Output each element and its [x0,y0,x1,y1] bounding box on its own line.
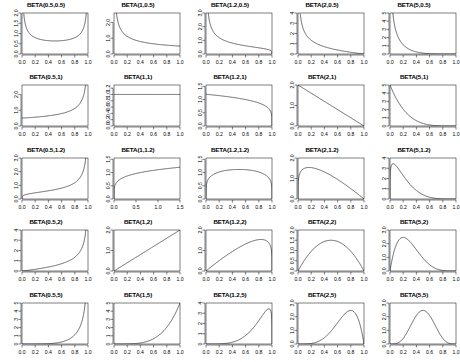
x-tick-label: 0.6 [426,204,433,210]
y-tick-label: 0.0 [105,195,111,202]
plot-panel: BETA(5,0.5)0.00.20.40.60.81.0012345 [368,0,460,72]
plot-area: 0.00.20.40.60.81.00.01.02.0 [276,72,368,144]
x-tick-label: 0.8 [71,204,78,210]
x-tick-label: 0.2 [124,131,131,137]
y-tick-label: 2.0 [105,226,111,233]
x-tick-label: 0.4 [321,59,328,65]
x-tick-label: 0.0 [18,276,25,282]
y-tick-label: 2 [13,249,19,252]
x-tick-label: 0.2 [400,204,407,210]
x-tick-label: 0.0 [202,131,209,137]
density-curve [114,230,180,271]
y-tick-label: 0.0 [13,195,19,202]
plot-frame [298,158,364,199]
x-tick-label: 0.4 [413,276,420,282]
x-tick-label: 1.5 [176,204,183,210]
x-tick-label: 0.6 [150,131,157,137]
y-tick-label: 2.0 [289,82,295,89]
plot-title: BETA(1,1) [92,73,184,81]
density-curve [208,13,272,54]
y-tick-label: 0.0 [197,50,203,57]
y-tick-label: 1 [381,117,387,120]
plot-area: 0.00.51.01.50.00.51.01.5 [92,145,184,217]
x-tick-label: 0.0 [294,276,301,282]
plot-frame [114,303,180,344]
x-tick-label: 0.2 [216,204,223,210]
x-tick-label: 0.4 [229,131,236,137]
x-tick-label: 0.6 [242,59,249,65]
y-tick-label: 2.0 [13,91,19,98]
x-tick-label: 1.0 [268,131,275,137]
x-tick-label: 0.0 [202,349,209,355]
plot-area: 0.00.20.40.60.81.00.01.02.03.0 [368,217,460,289]
x-tick-label: 0.2 [308,276,315,282]
x-tick-label: 0.6 [58,131,65,137]
x-tick-label: 0.8 [71,349,78,355]
x-tick-label: 1.0 [84,59,91,65]
y-tick-label: 4 [105,309,111,312]
y-tick-label: 2 [381,36,387,39]
y-tick-label: 5 [381,84,387,87]
y-tick-label: 4 [381,92,387,95]
x-tick-label: 0.8 [439,59,446,65]
plot-frame [206,13,272,54]
x-tick-label: 0.4 [137,276,144,282]
plot-frame [390,158,456,199]
x-tick-label: 0.4 [229,276,236,282]
plot-frame [22,303,88,344]
plot-panel: BETA(1.2,5)0.00.20.40.60.81.001234 [184,290,276,362]
x-tick-label: 0.6 [426,276,433,282]
x-tick-label: 1.0 [176,131,183,137]
x-tick-label: 0.2 [124,349,131,355]
plot-panel: BETA(2,0.5)0.00.20.40.60.81.001234 [276,0,368,72]
x-tick-label: 0.8 [255,131,262,137]
y-tick-label: 0 [13,342,19,345]
plot-title: BETA(1,2) [92,218,184,226]
x-tick-label: 0.8 [439,276,446,282]
y-tick-label: 1.0 [197,247,203,254]
plot-title: BETA(1.2,1) [184,73,276,81]
x-tick-label: 0.0 [294,204,301,210]
plot-panel: BETA(2,2)0.00.20.40.60.81.00.00.51.01.52… [276,217,368,289]
x-tick-label: 0.8 [439,131,446,137]
y-tick-label: 2.0 [289,313,295,320]
x-tick-label: 1.0 [176,276,183,282]
x-tick-label: 0.4 [137,59,144,65]
y-tick-label: 1.0 [289,247,295,254]
x-tick-label: 0.4 [321,131,328,137]
y-tick-label: 1 [381,44,387,47]
plot-panel: BETA(1.2,2)0.00.20.40.60.81.00.01.02.0 [184,217,276,289]
x-tick-label: 0.0 [386,276,393,282]
plot-panel: BETA(1,5)0.00.20.40.60.81.0012345 [92,290,184,362]
y-tick-label: 1.0 [289,102,295,109]
y-tick-label: 0 [381,197,387,200]
density-curve [206,240,272,272]
plot-frame [206,158,272,199]
y-tick-label: 4 [13,309,19,312]
x-tick-label: 0.0 [18,204,25,210]
plot-title: BETA(0.5,0.5) [0,1,92,9]
y-tick-label: 1 [13,259,19,262]
x-tick-label: 0.4 [45,131,52,137]
x-tick-label: 0.0 [294,59,301,65]
y-tick-label: 3.0 [197,9,203,16]
plot-title: BETA(0.5,5) [0,291,92,299]
x-tick-label: 0.0 [110,59,117,65]
x-tick-label: 0.0 [386,204,393,210]
x-tick-label: 1.0 [360,59,367,65]
plot-area: 0.00.20.40.60.81.00.01.02.0 [276,145,368,217]
y-tick-label: 1.0 [197,96,203,103]
plot-title: BETA(0.5,1) [0,73,92,81]
x-tick-label: 0.0 [294,349,301,355]
x-tick-label: 0.8 [255,59,262,65]
plot-panel: BETA(5,1.2)0.00.20.40.60.81.001234 [368,145,460,217]
plot-frame [390,303,456,344]
x-tick-label: 1.0 [268,59,275,65]
plot-panel: BETA(1,1)0.00.20.40.60.81.00.00.20.40.60… [92,72,184,144]
x-tick-label: 1.0 [268,204,275,210]
plot-title: BETA(2,5) [276,291,368,299]
x-tick-label: 0.5 [132,204,139,210]
y-tick-label: 3 [105,317,111,320]
x-tick-label: 0.2 [308,59,315,65]
plot-panel: BETA(1,2)0.00.20.40.60.81.00.01.02.0 [92,217,184,289]
